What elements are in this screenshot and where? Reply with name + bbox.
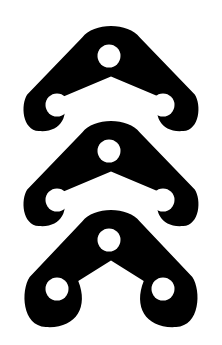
right-hole bbox=[152, 189, 175, 212]
left-hole bbox=[46, 94, 69, 117]
left-hole bbox=[46, 278, 69, 301]
right-hole bbox=[152, 278, 175, 301]
right-hole bbox=[152, 94, 175, 117]
apex-hole bbox=[98, 45, 121, 68]
left-hole bbox=[46, 189, 69, 212]
logo-canvas bbox=[0, 0, 222, 345]
apex-hole bbox=[98, 140, 121, 163]
triple-chevron-graphic bbox=[0, 0, 222, 345]
apex-hole bbox=[98, 229, 121, 252]
